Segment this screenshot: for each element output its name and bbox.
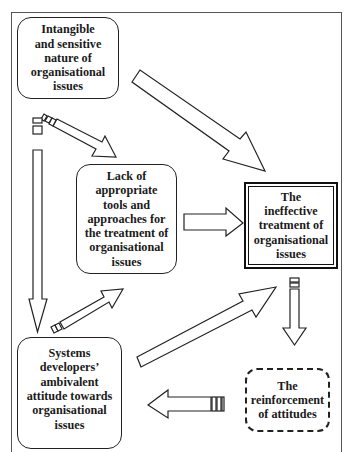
node-ineffective-text: The ineffective treatment of organisatio… xyxy=(254,190,329,261)
arrow-ambivalent-to-ineffective xyxy=(137,287,276,367)
node-intangible-nature: Intangible and sensitive nature of organ… xyxy=(17,17,119,99)
arrow-intangible-to-ineffective xyxy=(132,70,265,171)
arrow-ineffective-to-reinforcement xyxy=(283,278,306,345)
node-reinforcement-of-attitudes: The reinforcement of attitudes xyxy=(245,368,330,432)
arrow-reinforcement-to-ambivalent xyxy=(148,390,224,418)
node-ambivalent-text: Systems developers’ ambivalent attitude … xyxy=(27,346,113,432)
node-lack-of-tools: Lack of appropriate tools and approaches… xyxy=(76,164,177,274)
node-ambivalent-attitude: Systems developers’ ambivalent attitude … xyxy=(17,337,122,449)
arrow-intangible-to-ambivalent xyxy=(29,118,47,332)
arrow-intangible-to-lack xyxy=(41,114,116,157)
node-ineffective-inner: The ineffective treatment of organisatio… xyxy=(248,186,334,265)
arrow-lack-to-ineffective xyxy=(184,208,243,236)
node-ineffective-treatment: The ineffective treatment of organisatio… xyxy=(244,182,338,269)
node-intangible-text: Intangible and sensitive nature of organ… xyxy=(31,22,106,93)
arrow-ambivalent-to-lack xyxy=(51,289,123,333)
node-reinforcement-text: The reinforcement of attitudes xyxy=(251,379,324,422)
node-lack-text: Lack of appropriate tools and approaches… xyxy=(85,169,169,269)
